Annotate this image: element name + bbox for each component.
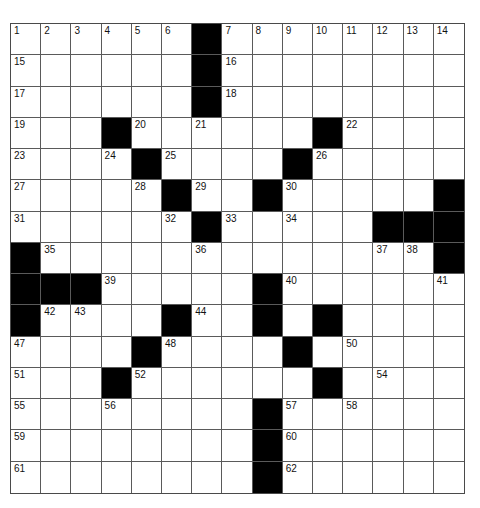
crossword-cell[interactable]: 35 bbox=[41, 243, 71, 274]
crossword-cell[interactable] bbox=[132, 305, 162, 336]
crossword-cell[interactable] bbox=[71, 243, 101, 274]
crossword-cell[interactable]: 23 bbox=[11, 149, 41, 180]
crossword-cell[interactable] bbox=[434, 118, 464, 149]
crossword-cell[interactable] bbox=[71, 430, 101, 461]
crossword-cell[interactable] bbox=[373, 149, 403, 180]
crossword-cell[interactable] bbox=[343, 87, 373, 118]
crossword-cell[interactable] bbox=[253, 87, 283, 118]
crossword-cell[interactable] bbox=[192, 399, 222, 430]
crossword-cell[interactable] bbox=[162, 399, 192, 430]
crossword-cell[interactable] bbox=[71, 180, 101, 211]
crossword-cell[interactable]: 5 bbox=[132, 24, 162, 55]
crossword-cell[interactable] bbox=[343, 149, 373, 180]
crossword-cell[interactable]: 25 bbox=[162, 149, 192, 180]
crossword-cell[interactable] bbox=[343, 430, 373, 461]
crossword-cell[interactable] bbox=[41, 87, 71, 118]
crossword-cell[interactable] bbox=[132, 243, 162, 274]
crossword-cell[interactable] bbox=[343, 462, 373, 493]
crossword-cell[interactable]: 50 bbox=[343, 337, 373, 368]
crossword-cell[interactable] bbox=[222, 274, 252, 305]
crossword-cell[interactable]: 17 bbox=[11, 87, 41, 118]
crossword-cell[interactable] bbox=[313, 430, 343, 461]
crossword-cell[interactable] bbox=[313, 462, 343, 493]
crossword-cell[interactable]: 1 bbox=[11, 24, 41, 55]
crossword-cell[interactable]: 52 bbox=[132, 368, 162, 399]
crossword-cell[interactable] bbox=[71, 212, 101, 243]
crossword-cell[interactable] bbox=[404, 462, 434, 493]
crossword-cell[interactable] bbox=[41, 462, 71, 493]
crossword-cell[interactable] bbox=[404, 149, 434, 180]
crossword-cell[interactable] bbox=[71, 337, 101, 368]
crossword-cell[interactable]: 38 bbox=[404, 243, 434, 274]
crossword-cell[interactable] bbox=[434, 305, 464, 336]
crossword-cell[interactable] bbox=[253, 337, 283, 368]
crossword-cell[interactable] bbox=[434, 430, 464, 461]
crossword-cell[interactable]: 37 bbox=[373, 243, 403, 274]
crossword-cell[interactable] bbox=[404, 55, 434, 86]
crossword-cell[interactable] bbox=[283, 243, 313, 274]
crossword-cell[interactable] bbox=[404, 430, 434, 461]
crossword-cell[interactable] bbox=[132, 55, 162, 86]
crossword-cell[interactable] bbox=[162, 55, 192, 86]
crossword-cell[interactable] bbox=[162, 243, 192, 274]
crossword-cell[interactable] bbox=[162, 462, 192, 493]
crossword-cell[interactable]: 47 bbox=[11, 337, 41, 368]
crossword-cell[interactable] bbox=[253, 243, 283, 274]
crossword-cell[interactable]: 4 bbox=[102, 24, 132, 55]
crossword-cell[interactable] bbox=[404, 368, 434, 399]
crossword-cell[interactable]: 6 bbox=[162, 24, 192, 55]
crossword-cell[interactable]: 29 bbox=[192, 180, 222, 211]
crossword-cell[interactable] bbox=[343, 180, 373, 211]
crossword-cell[interactable] bbox=[222, 368, 252, 399]
crossword-cell[interactable] bbox=[343, 243, 373, 274]
crossword-cell[interactable] bbox=[343, 212, 373, 243]
crossword-cell[interactable] bbox=[71, 462, 101, 493]
crossword-cell[interactable] bbox=[404, 337, 434, 368]
crossword-cell[interactable]: 43 bbox=[71, 305, 101, 336]
crossword-cell[interactable]: 31 bbox=[11, 212, 41, 243]
crossword-cell[interactable] bbox=[71, 87, 101, 118]
crossword-cell[interactable]: 2 bbox=[41, 24, 71, 55]
crossword-cell[interactable] bbox=[283, 55, 313, 86]
crossword-cell[interactable] bbox=[102, 337, 132, 368]
crossword-cell[interactable] bbox=[162, 430, 192, 461]
crossword-cell[interactable] bbox=[373, 337, 403, 368]
crossword-cell[interactable] bbox=[192, 149, 222, 180]
crossword-cell[interactable] bbox=[71, 118, 101, 149]
crossword-cell[interactable] bbox=[283, 305, 313, 336]
crossword-cell[interactable]: 40 bbox=[283, 274, 313, 305]
crossword-cell[interactable] bbox=[102, 243, 132, 274]
crossword-cell[interactable] bbox=[404, 180, 434, 211]
crossword-cell[interactable] bbox=[192, 274, 222, 305]
crossword-cell[interactable] bbox=[222, 462, 252, 493]
crossword-cell[interactable] bbox=[434, 337, 464, 368]
crossword-cell[interactable] bbox=[373, 399, 403, 430]
crossword-cell[interactable] bbox=[222, 337, 252, 368]
crossword-cell[interactable] bbox=[313, 87, 343, 118]
crossword-cell[interactable] bbox=[313, 274, 343, 305]
crossword-cell[interactable] bbox=[283, 118, 313, 149]
crossword-cell[interactable] bbox=[343, 305, 373, 336]
crossword-cell[interactable] bbox=[102, 430, 132, 461]
crossword-cell[interactable] bbox=[404, 118, 434, 149]
crossword-cell[interactable]: 62 bbox=[283, 462, 313, 493]
crossword-cell[interactable]: 8 bbox=[253, 24, 283, 55]
crossword-cell[interactable] bbox=[253, 368, 283, 399]
crossword-cell[interactable] bbox=[373, 430, 403, 461]
crossword-cell[interactable] bbox=[434, 87, 464, 118]
crossword-cell[interactable] bbox=[434, 399, 464, 430]
crossword-cell[interactable]: 51 bbox=[11, 368, 41, 399]
crossword-cell[interactable]: 60 bbox=[283, 430, 313, 461]
crossword-cell[interactable]: 44 bbox=[192, 305, 222, 336]
crossword-cell[interactable]: 12 bbox=[373, 24, 403, 55]
crossword-cell[interactable] bbox=[192, 462, 222, 493]
crossword-cell[interactable] bbox=[313, 399, 343, 430]
crossword-cell[interactable] bbox=[102, 462, 132, 493]
crossword-cell[interactable]: 27 bbox=[11, 180, 41, 211]
crossword-cell[interactable] bbox=[222, 180, 252, 211]
crossword-cell[interactable] bbox=[222, 118, 252, 149]
crossword-cell[interactable]: 36 bbox=[192, 243, 222, 274]
crossword-cell[interactable] bbox=[71, 149, 101, 180]
crossword-cell[interactable]: 58 bbox=[343, 399, 373, 430]
crossword-cell[interactable]: 20 bbox=[132, 118, 162, 149]
